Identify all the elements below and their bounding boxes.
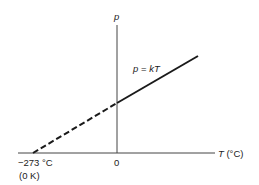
pressure-temperature-diagram: p p = kT T (°C) 0 −273 °C (0 K) <box>0 0 259 185</box>
absolute-zero-celsius-label: −273 °C <box>18 157 53 168</box>
extrapolation-dashed-line <box>33 103 117 153</box>
curve-label: p = kT <box>132 63 161 74</box>
y-axis-label: p <box>113 11 119 22</box>
origin-tick-label: 0 <box>114 157 119 168</box>
x-axis-label: T (°C) <box>218 148 243 159</box>
absolute-zero-kelvin-label: (0 K) <box>19 170 40 181</box>
